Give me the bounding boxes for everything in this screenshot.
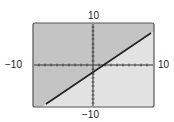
x-max-label: 10 — [158, 60, 169, 70]
graph-window — [0, 0, 174, 122]
y-max-label: 10 — [88, 11, 99, 21]
x-min-label: −10 — [5, 60, 22, 70]
y-min-label: −10 — [82, 110, 99, 120]
